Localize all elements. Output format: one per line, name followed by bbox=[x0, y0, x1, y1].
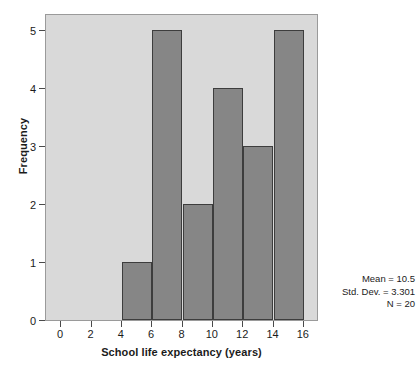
x-axis-tick-label: 0 bbox=[46, 328, 74, 340]
y-axis-tick-label: 2 bbox=[16, 198, 36, 212]
y-axis-tick: 1 bbox=[0, 256, 45, 270]
y-axis-tick: 0 bbox=[0, 314, 45, 328]
x-axis-tick-mark bbox=[242, 321, 243, 327]
x-axis-tick-mark bbox=[91, 321, 92, 327]
x-axis-tick-mark bbox=[151, 321, 152, 327]
x-axis-tick-mark bbox=[60, 321, 61, 327]
x-axis-tick-label: 8 bbox=[168, 328, 196, 340]
histogram-bar bbox=[183, 204, 213, 320]
y-axis-tick: 4 bbox=[0, 82, 45, 96]
statistics-annotation: Mean = 10.5 Std. Dev. = 3.301 N = 20 bbox=[322, 273, 415, 311]
y-axis-tick-label: 4 bbox=[16, 82, 36, 96]
y-axis-tick: 2 bbox=[0, 198, 45, 212]
y-axis-tick: 5 bbox=[0, 24, 45, 38]
y-axis-tick-label: 3 bbox=[16, 140, 36, 154]
x-axis-tick-label: 4 bbox=[107, 328, 135, 340]
x-axis-title: School life expectancy (years) bbox=[45, 346, 318, 358]
x-axis-tick-label: 14 bbox=[259, 328, 287, 340]
x-axis-tick-label: 10 bbox=[198, 328, 226, 340]
x-axis-tick-label: 6 bbox=[137, 328, 165, 340]
stat-n: N = 20 bbox=[322, 298, 415, 311]
x-axis-tick-label: 16 bbox=[289, 328, 317, 340]
histogram-bar bbox=[122, 262, 152, 320]
x-axis-tick-label: 2 bbox=[77, 328, 105, 340]
histogram-bar bbox=[274, 30, 304, 320]
x-axis-tick-mark bbox=[182, 321, 183, 327]
histogram-figure: Frequency 012345 0246810121416 School li… bbox=[0, 0, 417, 371]
x-axis-tick-mark bbox=[212, 321, 213, 327]
histogram-bar bbox=[243, 146, 273, 320]
histogram-bar bbox=[213, 88, 243, 320]
stat-mean: Mean = 10.5 bbox=[322, 273, 415, 286]
y-axis-tick: 3 bbox=[0, 140, 45, 154]
x-axis-tick-mark bbox=[273, 321, 274, 327]
x-axis-tick-mark bbox=[121, 321, 122, 327]
histogram-bar bbox=[152, 30, 182, 320]
plot-area bbox=[45, 14, 318, 321]
y-axis-tick-label: 0 bbox=[16, 314, 36, 328]
y-axis-tick-label: 5 bbox=[16, 24, 36, 38]
y-axis-tick-label: 1 bbox=[16, 256, 36, 270]
stat-std-dev: Std. Dev. = 3.301 bbox=[322, 286, 415, 299]
x-axis-tick-label: 12 bbox=[228, 328, 256, 340]
x-axis-tick-mark bbox=[303, 321, 304, 327]
